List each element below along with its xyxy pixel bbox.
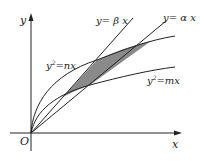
line-beta-x [31, 18, 133, 133]
y-axis-arrow-icon [29, 13, 34, 21]
line-alpha-x [31, 21, 166, 133]
x-axis-arrow-icon [174, 131, 182, 136]
line-beta-label: y= β x [95, 15, 128, 26]
y-axis-label: y [19, 14, 27, 27]
parabola-n-label: y2=nx [45, 59, 76, 71]
parabola-m-label: y2=mx [146, 74, 180, 86]
parabola-nx [31, 36, 175, 133]
region-diagram: y x O y= β x y= α x y2=nx y2=mx [0, 0, 204, 161]
x-axis-label: x [172, 138, 179, 151]
origin-label: O [20, 135, 29, 148]
line-alpha-label: y= α x [162, 12, 196, 23]
